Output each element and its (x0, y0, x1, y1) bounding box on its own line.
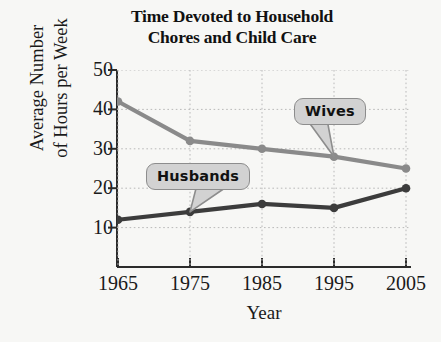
data-point-husbands-1985 (258, 200, 267, 209)
data-point-wives-1975 (186, 137, 195, 146)
chart-title-line-1: Time Devoted to Household (62, 6, 402, 27)
y-tick-label-20: 20 (77, 177, 113, 197)
y-tick-label-10: 10 (77, 217, 113, 237)
x-tick-label-1965: 1965 (83, 272, 153, 294)
x-tick-label-2005: 2005 (371, 272, 441, 294)
data-point-wives-1985 (258, 145, 267, 154)
data-point-wives-2005 (402, 164, 411, 173)
x-tick-label-1995: 1995 (299, 272, 369, 294)
x-tick-label-1985: 1985 (227, 272, 297, 294)
x-axis-title: Year (117, 302, 411, 324)
y-tick-label-40: 40 (77, 98, 113, 118)
callout-tail-wives (310, 124, 334, 157)
chart-figure: Time Devoted to Household Chores and Chi… (0, 0, 441, 342)
series-callout-wives: Wives (294, 98, 366, 125)
data-point-husbands-1995 (330, 204, 339, 213)
y-tick-label-30: 30 (77, 138, 113, 158)
y-tick-label-50: 50 (77, 59, 113, 79)
data-point-husbands-2005 (402, 184, 411, 193)
series-callout-husbands: Husbands (146, 163, 250, 190)
y-axis-title-line-1: Average Number (25, 0, 49, 193)
data-point-husbands-1965 (117, 215, 122, 224)
chart-title: Time Devoted to Household Chores and Chi… (62, 6, 402, 48)
chart-title-line-2: Chores and Child Care (62, 27, 402, 48)
x-tick-label-1975: 1975 (155, 272, 225, 294)
